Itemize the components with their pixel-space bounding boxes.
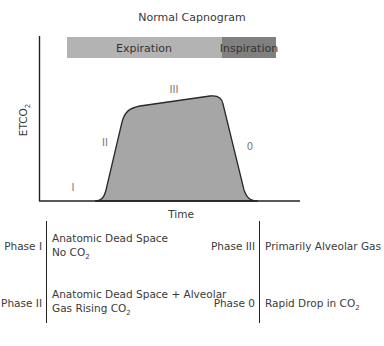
- legend-phase-i-line1: Anatomic Dead Space: [52, 231, 168, 245]
- legend-phase-i-name: Phase I: [0, 239, 42, 253]
- legend-phase-ii-name: Phase II: [0, 296, 42, 310]
- capnogram-chart: Expiration Inspiration ETCO2 Time I II I…: [0, 0, 384, 230]
- phase-ii-label: II: [102, 137, 108, 148]
- expiration-label: Expiration: [116, 42, 172, 55]
- legend-phase-iii-name: Phase III: [200, 239, 255, 253]
- legend-phase-i-desc: Anatomic Dead Space No CO2: [52, 231, 168, 259]
- legend-divider-right: [259, 221, 260, 323]
- legend-divider-left: [46, 221, 47, 323]
- legend-phase-i-line2: No CO2: [52, 245, 168, 259]
- phase-0-label: 0: [247, 141, 253, 152]
- legend-phase-iii-desc: Primarily Alveolar Gas: [265, 239, 381, 253]
- inspiration-label: Inspiration: [220, 42, 278, 55]
- legend-phase-0-desc: Rapid Drop in CO2: [265, 296, 360, 310]
- waveform-area: [95, 96, 258, 201]
- y-axis-label: ETCO2: [17, 104, 32, 137]
- x-axis-label: Time: [167, 208, 194, 220]
- phase-i-label: I: [72, 182, 75, 193]
- phase-iii-label: III: [170, 84, 179, 95]
- legend-phase-0-name: Phase 0: [200, 296, 255, 310]
